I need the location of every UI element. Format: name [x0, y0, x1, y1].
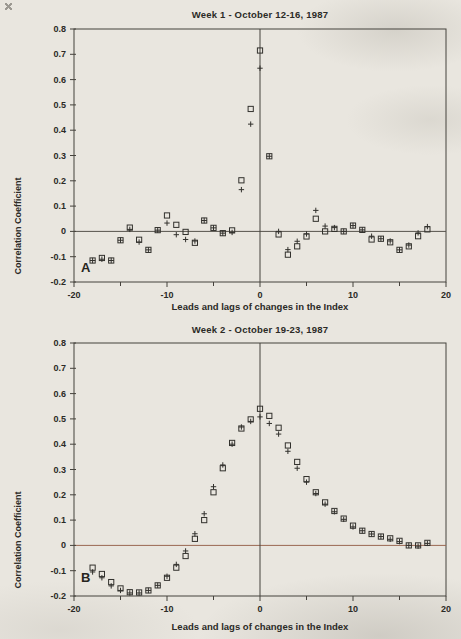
plus-marker: [350, 524, 355, 529]
square-marker: [211, 490, 216, 495]
plus-marker: [360, 528, 365, 533]
plus-marker: [192, 531, 197, 536]
plus-marker: [202, 511, 207, 516]
plus-marker: [313, 208, 318, 213]
square-marker: [285, 443, 290, 448]
plus-marker: [109, 583, 114, 588]
y-tick-label: 0: [61, 540, 66, 550]
plus-marker: [99, 257, 104, 262]
x-tick-label: 10: [348, 604, 358, 614]
plus-marker: [369, 531, 374, 536]
plus-marker: [369, 234, 374, 239]
plus-marker: [406, 543, 411, 548]
plus-marker: [109, 258, 114, 263]
plus-marker: [229, 230, 234, 235]
y-tick-label: 0.7: [53, 49, 66, 59]
y-tick-label: 0.3: [53, 465, 66, 475]
y-tick-label: 0.1: [53, 201, 66, 211]
square-marker: [192, 536, 197, 541]
y-tick-label: 0.2: [53, 490, 66, 500]
plus-marker: [406, 242, 411, 247]
chart-b-plot-area: -0.2-0.100.10.20.30.40.50.60.70.8-20-100…: [0, 320, 461, 639]
plus-marker: [388, 238, 393, 243]
y-tick-label: 0.1: [53, 515, 66, 525]
y-tick-label: -0.1: [50, 566, 66, 576]
x-tick-label: -20: [67, 290, 80, 300]
y-tick-label: 0.5: [53, 414, 66, 424]
y-tick-label: 0.6: [53, 389, 66, 399]
y-tick-label: -0.2: [50, 277, 66, 287]
y-tick-label: 0.6: [53, 75, 66, 85]
y-tick-label: 0.3: [53, 151, 66, 161]
chart-panel-week2: Week 2 - October 19-23, 1987 Correlation…: [0, 320, 461, 639]
square-marker: [285, 252, 290, 257]
plus-marker: [285, 247, 290, 252]
x-tick-label: -10: [160, 604, 173, 614]
plus-marker: [146, 247, 151, 252]
plus-marker: [295, 239, 300, 244]
plus-marker: [248, 419, 253, 424]
plus-marker: [174, 562, 179, 567]
plus-marker: [155, 583, 160, 588]
plus-marker: [332, 225, 337, 230]
y-tick-label: -0.2: [50, 591, 66, 601]
square-marker: [202, 518, 207, 523]
chart-b-x-axis-label: Leads and lags of changes in the Index: [74, 621, 446, 632]
plus-marker: [118, 588, 123, 593]
plus-marker: [118, 238, 123, 243]
plus-marker: [146, 588, 151, 593]
plus-marker: [248, 121, 253, 126]
square-marker: [183, 229, 188, 234]
plus-marker: [267, 421, 272, 426]
chart-b-panel-letter: B: [81, 570, 90, 585]
plus-marker: [211, 225, 216, 230]
chart-a-plot-area: -0.2-0.100.10.20.30.40.50.60.70.8-20-100…: [0, 0, 461, 320]
square-marker: [164, 213, 169, 218]
plus-marker: [90, 258, 95, 263]
plus-marker: [257, 414, 262, 419]
square-marker: [248, 106, 253, 111]
plus-marker: [202, 218, 207, 223]
x-tick-label: 20: [441, 604, 451, 614]
plus-marker: [183, 237, 188, 242]
plus-marker: [397, 247, 402, 252]
x-tick-label: -10: [160, 290, 173, 300]
square-marker: [313, 216, 318, 221]
plus-marker: [164, 574, 169, 579]
plus-marker: [322, 501, 327, 506]
square-marker: [174, 222, 179, 227]
y-tick-label: 0.4: [53, 125, 66, 135]
plus-marker: [99, 575, 104, 580]
plus-marker: [322, 223, 327, 228]
plus-marker: [276, 431, 281, 436]
y-tick-label: 0.4: [53, 439, 66, 449]
plus-marker: [220, 462, 225, 467]
plus-marker: [183, 548, 188, 553]
plus-marker: [378, 534, 383, 539]
square-marker: [295, 459, 300, 464]
plus-marker: [239, 187, 244, 192]
y-tick-label: 0.7: [53, 363, 66, 373]
y-tick-label: 0: [61, 226, 66, 236]
plus-marker: [267, 154, 272, 159]
plus-marker: [174, 232, 179, 237]
y-tick-label: 0.8: [53, 24, 66, 34]
plus-marker: [155, 227, 160, 232]
plus-marker: [239, 424, 244, 429]
chart-a-x-axis-label: Leads and lags of changes in the Index: [74, 301, 446, 312]
square-marker: [267, 413, 272, 418]
plus-marker: [164, 220, 169, 225]
plus-marker: [229, 442, 234, 447]
plus-marker: [211, 484, 216, 489]
plus-marker: [341, 229, 346, 234]
plus-marker: [295, 466, 300, 471]
chart-panel-week1: Week 1 - October 12-16, 1987 Correlation…: [0, 0, 461, 320]
x-tick-label: 0: [257, 290, 262, 300]
x-tick-label: -20: [67, 604, 80, 614]
chart-a-panel-letter: A: [81, 260, 90, 275]
x-tick-label: 10: [348, 290, 358, 300]
y-tick-label: -0.1: [50, 252, 66, 262]
plus-marker: [350, 223, 355, 228]
square-marker: [276, 425, 281, 430]
plus-marker: [257, 66, 262, 71]
